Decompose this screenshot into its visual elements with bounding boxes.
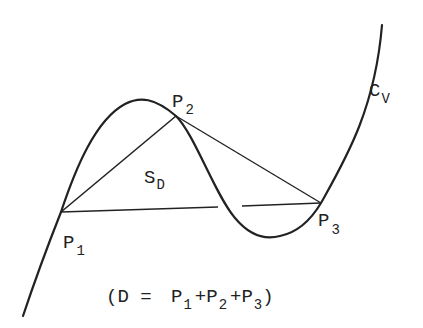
cubic-curve [23, 25, 382, 316]
elliptic-curve-diagram: P1 P2 P3 SD CV (D = P1+P2+P3) [0, 0, 423, 328]
label-p1: P1 [63, 232, 85, 259]
line-p1-p3-left [61, 207, 218, 212]
line-p2-p3 [176, 116, 321, 203]
caption: (D = P1+P2+P3) [106, 286, 274, 313]
line-p1-p3-right [242, 203, 321, 206]
label-curve-cv: CV [369, 80, 390, 107]
label-region-sd: SD [144, 167, 165, 193]
label-p3: P3 [318, 210, 340, 238]
